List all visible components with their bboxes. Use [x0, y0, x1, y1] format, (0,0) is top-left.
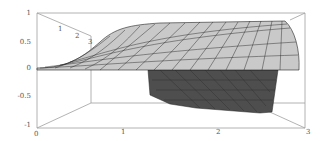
- upper-surface: [37, 21, 299, 70]
- svg-text:0: 0: [34, 130, 38, 138]
- svg-text:3: 3: [306, 128, 310, 136]
- svg-text:0: 0: [27, 64, 31, 72]
- svg-text:1: 1: [27, 9, 31, 17]
- z-axis-ticks: 1 0.5 0 -0.5 -1: [18, 9, 32, 129]
- svg-text:-1: -1: [24, 121, 31, 129]
- svg-text:0.5: 0.5: [20, 38, 31, 46]
- lower-surface: [148, 70, 278, 113]
- svg-text:2: 2: [216, 128, 220, 136]
- x-axis-ticks: 0 1 2 3: [34, 128, 310, 138]
- surface-plot: 1 0.5 0 -0.5 -1 1 2 3 0 1 2 3: [0, 0, 326, 141]
- svg-text:1: 1: [121, 128, 125, 136]
- svg-text:-0.5: -0.5: [18, 92, 32, 100]
- svg-text:2: 2: [75, 32, 79, 40]
- y-axis-ticks: 1 2 3: [58, 25, 92, 46]
- svg-text:3: 3: [88, 38, 92, 46]
- svg-text:1: 1: [58, 25, 62, 33]
